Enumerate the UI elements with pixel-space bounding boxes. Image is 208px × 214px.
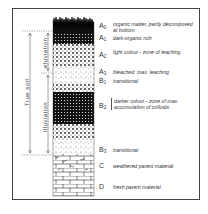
illuviation-label: illuviation xyxy=(42,102,48,132)
horizon-code-a1: A1 xyxy=(99,34,106,44)
horizon-code-b3: B3 xyxy=(99,146,106,156)
true-soil-label: True soil xyxy=(24,79,30,106)
horizon-desc-a1: dark-organic rich xyxy=(113,35,197,41)
horizon-b1-band xyxy=(53,76,94,84)
horizon-code-b1: B1 xyxy=(99,77,106,87)
horizon-d-band xyxy=(53,174,94,196)
horizon-c-band xyxy=(53,154,94,174)
horizon-b2-band xyxy=(53,92,94,124)
horizon-desc-a3: bleached: max. leaching xyxy=(113,69,197,75)
horizon-a2-band xyxy=(53,44,94,66)
horizon-desc-a2: light colour - zone of leaching xyxy=(113,49,183,55)
horizon-code-b2: B2 xyxy=(99,102,106,112)
horizon-code-a2: A2 xyxy=(99,51,106,61)
horizon-a0-band xyxy=(53,17,94,32)
horizon-desc-a0: organic matter, partly decomposed at bot… xyxy=(113,21,197,33)
horizon-desc-b1: transitional xyxy=(113,78,197,84)
horizon-a3-band xyxy=(53,66,94,76)
horizon-code-d: D xyxy=(99,183,104,191)
eluviation-label: eluviation xyxy=(42,38,48,68)
horizon-desc-c: weathered parent material xyxy=(113,163,197,169)
horizon-desc-b2: darker colour - zone of max. accumulatio… xyxy=(111,98,180,110)
horizon-code-c: C xyxy=(99,162,104,170)
horizon-desc-d: fresh parent material xyxy=(113,184,197,190)
horizon-a1-band xyxy=(53,32,94,44)
horizon-desc-b3: transitional xyxy=(113,147,197,153)
horizon-b3-band xyxy=(53,140,94,154)
horizon-code-a0: A0 xyxy=(99,22,106,32)
